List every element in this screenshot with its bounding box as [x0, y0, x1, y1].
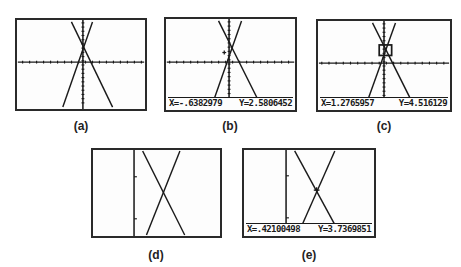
readout-x: X=-.6382979	[169, 98, 222, 109]
line-increasing	[146, 151, 179, 235]
caption-e: (e)	[289, 248, 329, 262]
calculator-screen-c: X=1.2765957 Y=4.516129	[316, 19, 452, 112]
caption-c: (c)	[364, 119, 404, 133]
caption-d: (d)	[136, 248, 176, 262]
calculator-screen-d	[91, 148, 222, 238]
line-increasing	[302, 151, 334, 225]
coordinate-readout: X=.42100498 Y=3.7369851	[246, 223, 372, 235]
readout-x: X=.42100498	[247, 224, 300, 235]
graph-a	[17, 20, 145, 109]
line-decreasing	[295, 151, 335, 225]
coordinate-readout: X=1.2765957 Y=4.516129	[320, 97, 448, 109]
caption-b: (b)	[210, 119, 250, 133]
readout-y: Y=3.7369851	[318, 224, 371, 235]
graph-d	[93, 150, 220, 236]
calculator-screen-b: X=-.6382979 Y=2.5806452	[164, 17, 297, 112]
calculator-screen-e: X=.42100498 Y=3.7369851	[242, 148, 376, 238]
readout-x: X=1.2765957	[321, 98, 374, 109]
readout-y: Y=4.516129	[399, 98, 447, 109]
trace-cursor	[222, 51, 226, 55]
calculator-screen-a	[15, 18, 147, 111]
coordinate-readout: X=-.6382979 Y=2.5806452	[168, 97, 293, 109]
caption-a: (a)	[61, 119, 101, 133]
readout-y: Y=2.5806452	[239, 98, 292, 109]
